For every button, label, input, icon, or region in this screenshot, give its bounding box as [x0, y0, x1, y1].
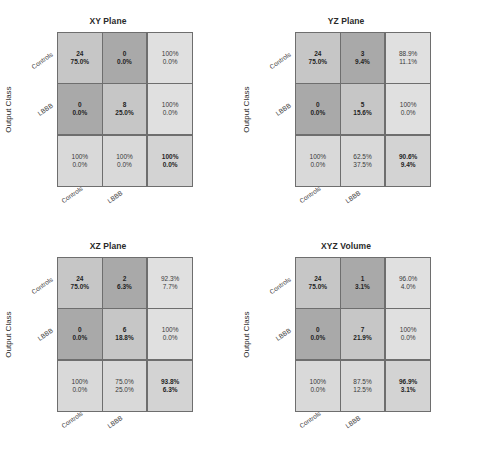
- cell-secondary-value: 0.0%: [72, 386, 87, 394]
- matrix-cell: 2475.0%: [296, 33, 341, 84]
- y-tick-label: Controls: [12, 276, 54, 308]
- cell-primary-value: 0: [78, 326, 82, 334]
- matrix-cell: 90.6%9.4%: [385, 135, 430, 186]
- cell-secondary-value: 0.0%: [117, 161, 132, 169]
- cell-secondary-value: 12.5%: [353, 386, 371, 394]
- y-tick-label: LBBB: [250, 327, 292, 359]
- cell-secondary-value: 0.0%: [310, 334, 325, 342]
- cell-primary-value: 96.9%: [399, 378, 417, 386]
- y-axis-label-text: Output Class: [4, 311, 13, 357]
- matrix-cell: 100%0.0%: [147, 135, 192, 186]
- matrix-cell: 100%0.0%: [58, 135, 103, 186]
- cell-primary-value: 3: [361, 50, 365, 58]
- panel-title: XY Plane: [38, 16, 178, 26]
- cell-secondary-value: 75.0%: [309, 58, 327, 66]
- cell-secondary-value: 0.0%: [163, 109, 178, 117]
- matrix-cell: 75.0%25.0%: [103, 360, 148, 411]
- matrix-cell: 39.4%: [341, 33, 386, 84]
- matrix-cell: 100%0.0%: [296, 135, 341, 186]
- matrix-cell: 62.5%37.5%: [341, 135, 386, 186]
- cell-primary-value: 62.5%: [353, 153, 371, 161]
- confusion-matrix-panel: XY PlaneOutput ClassControlsLBBBControls…: [0, 12, 238, 237]
- cell-primary-value: 96.0%: [399, 275, 417, 283]
- cell-secondary-value: 0.0%: [72, 334, 87, 342]
- y-axis-label-text: Output Class: [4, 86, 13, 132]
- matrix-cell: 87.5%12.5%: [341, 360, 386, 411]
- y-axis-label: Output Class: [2, 257, 14, 412]
- matrix-cell: 100%0.0%: [147, 309, 192, 360]
- cell-primary-value: 1: [361, 275, 365, 283]
- cell-secondary-value: 75.0%: [71, 58, 89, 66]
- cell-primary-value: 92.3%: [161, 275, 179, 283]
- cell-secondary-value: 4.0%: [401, 283, 416, 291]
- confusion-matrix-grid: XY PlaneOutput ClassControlsLBBBControls…: [0, 12, 477, 470]
- matrix-cell: 26.3%: [103, 258, 148, 309]
- matrix-cell: 100%0.0%: [147, 84, 192, 135]
- matrix-cell: 100%0.0%: [385, 309, 430, 360]
- cell-primary-value: 5: [361, 101, 365, 109]
- cell-secondary-value: 21.9%: [353, 334, 371, 342]
- y-tick-label: Controls: [250, 276, 292, 308]
- cell-primary-value: 75.0%: [115, 378, 133, 386]
- cell-secondary-value: 6.3%: [117, 283, 132, 291]
- cell-primary-value: 100%: [310, 378, 327, 386]
- confusion-matrix: 2475.0%26.3%92.3%7.7%00.0%618.8%100%0.0%…: [57, 257, 193, 412]
- matrix-cell: 00.0%: [103, 33, 148, 84]
- cell-secondary-value: 0.0%: [401, 334, 416, 342]
- confusion-matrix: 2475.0%00.0%100%0.0%00.0%825.0%100%0.0%1…: [57, 32, 193, 187]
- cell-secondary-value: 3.1%: [355, 283, 370, 291]
- cell-secondary-value: 0.0%: [163, 58, 178, 66]
- cell-secondary-value: 0.0%: [117, 58, 132, 66]
- y-axis-label-text: Output Class: [242, 86, 251, 132]
- cell-primary-value: 7: [361, 326, 365, 334]
- cell-primary-value: 100%: [400, 326, 417, 334]
- cell-primary-value: 100%: [162, 326, 179, 334]
- cell-secondary-value: 75.0%: [71, 283, 89, 291]
- cell-primary-value: 90.6%: [399, 153, 417, 161]
- matrix-cell: 00.0%: [58, 309, 103, 360]
- cell-secondary-value: 6.3%: [163, 386, 178, 394]
- cell-primary-value: 100%: [72, 378, 89, 386]
- matrix-cell: 13.1%: [341, 258, 386, 309]
- cell-primary-value: 100%: [116, 153, 133, 161]
- cell-secondary-value: 75.0%: [309, 283, 327, 291]
- cell-secondary-value: 9.4%: [401, 161, 416, 169]
- cell-secondary-value: 37.5%: [353, 161, 371, 169]
- cell-primary-value: 100%: [310, 153, 327, 161]
- matrix-cell: 100%0.0%: [296, 360, 341, 411]
- matrix-cell: 96.0%4.0%: [385, 258, 430, 309]
- cell-primary-value: 100%: [400, 101, 417, 109]
- cell-primary-value: 2: [123, 275, 127, 283]
- cell-secondary-value: 0.0%: [401, 109, 416, 117]
- cell-primary-value: 0: [78, 101, 82, 109]
- matrix-cell: 100%0.0%: [147, 33, 192, 84]
- confusion-matrix: 2475.0%13.1%96.0%4.0%00.0%721.9%100%0.0%…: [295, 257, 431, 412]
- y-axis-label: Output Class: [2, 32, 14, 187]
- y-tick-label: LBBB: [12, 327, 54, 359]
- cell-primary-value: 24: [314, 50, 321, 58]
- cell-primary-value: 100%: [162, 153, 179, 161]
- cell-secondary-value: 25.0%: [115, 109, 133, 117]
- matrix-cell: 88.9%11.1%: [385, 33, 430, 84]
- cell-secondary-value: 0.0%: [72, 161, 87, 169]
- cell-primary-value: 0: [316, 326, 320, 334]
- panel-title: YZ Plane: [276, 16, 416, 26]
- confusion-matrix-panel: YZ PlaneOutput ClassControlsLBBBControls…: [238, 12, 477, 237]
- cell-primary-value: 24: [314, 275, 321, 283]
- y-tick-label: LBBB: [250, 102, 292, 134]
- y-axis-label: Output Class: [240, 257, 252, 412]
- matrix-cell: 2475.0%: [58, 33, 103, 84]
- cell-primary-value: 88.9%: [399, 50, 417, 58]
- cell-primary-value: 6: [123, 326, 127, 334]
- cell-primary-value: 87.5%: [353, 378, 371, 386]
- y-tick-label: LBBB: [12, 102, 54, 134]
- cell-secondary-value: 7.7%: [163, 283, 178, 291]
- matrix-cell: 100%0.0%: [103, 135, 148, 186]
- cell-primary-value: 0: [123, 50, 127, 58]
- cell-secondary-value: 25.0%: [115, 386, 133, 394]
- matrix-cell: 2475.0%: [58, 258, 103, 309]
- matrix-cell: 100%0.0%: [58, 360, 103, 411]
- cell-secondary-value: 18.8%: [115, 334, 133, 342]
- y-tick-label: Controls: [12, 51, 54, 83]
- panel-title: XZ Plane: [38, 241, 178, 251]
